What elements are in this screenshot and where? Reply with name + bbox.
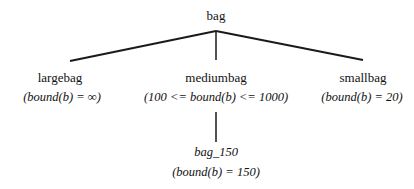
edge-bag-largebag — [70, 31, 216, 61]
node-root-bag: bag — [207, 8, 226, 24]
condition-bag-150: (bound(b) = 150) — [172, 165, 260, 180]
edge-bag-smallbag — [216, 31, 363, 60]
condition-largebag: (bound(b) = ∞) — [23, 90, 101, 105]
node-largebag: largebag — [38, 70, 83, 86]
node-bag-150: bag_150 — [194, 145, 238, 160]
node-mediumbag: mediumbag — [185, 70, 246, 86]
condition-smallbag: (bound(b) = 20) — [321, 90, 402, 105]
node-smallbag: smallbag — [340, 70, 387, 86]
condition-mediumbag: (100 <= bound(b) <= 1000) — [144, 90, 288, 105]
